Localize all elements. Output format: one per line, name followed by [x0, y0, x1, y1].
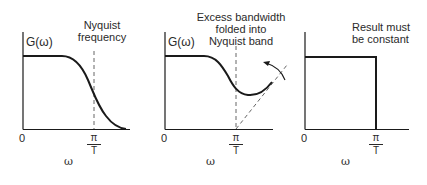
panel-2-annotation-line-1: Excess bandwidth: [196, 11, 286, 23]
panel-2-cutoff-label: π T: [229, 133, 243, 156]
panel-3-graph: [305, 32, 409, 130]
panel-1-annotation-line-1: Nyquist: [72, 19, 132, 31]
t-symbol: T: [369, 145, 383, 156]
panel-3-cutoff-label: π T: [369, 133, 383, 156]
panel-2-x-label: ω: [206, 155, 215, 168]
panel-2-origin-label: 0: [161, 132, 167, 144]
panel-3-annotation-line-2: be constant: [352, 33, 409, 45]
panel-1-x-label: ω: [64, 155, 73, 168]
panel-2-y-label: G(ω): [168, 36, 195, 48]
panel-3-origin-label: 0: [301, 132, 307, 144]
panel-2-annotation-line-3: Nyquist band: [196, 35, 286, 47]
panel-3-constant-curve: [305, 57, 376, 130]
panel-2-annotation-line-2: folded into: [196, 23, 286, 35]
panel-1-y-label: G(ω): [26, 36, 53, 48]
panel-1-cutoff-label: π T: [87, 133, 101, 156]
t-symbol: T: [87, 145, 101, 156]
pi-symbol: π: [369, 133, 383, 145]
panel-1-spectrum-curve: [23, 56, 126, 129]
pi-symbol: π: [87, 133, 101, 145]
fold-arrowhead-icon: [263, 61, 270, 66]
panel-3-x-label: ω: [341, 155, 350, 168]
pi-symbol: π: [229, 133, 243, 145]
panel-2-fold-dashed-line: [236, 65, 287, 129]
panel-1-origin-label: 0: [19, 132, 25, 144]
t-symbol: T: [229, 145, 243, 156]
panel-3-annotation-line-1: Result must: [352, 21, 410, 33]
panel-2-folded-curve: [165, 56, 272, 95]
panel-1-annotation-line-2: frequency: [68, 31, 136, 43]
